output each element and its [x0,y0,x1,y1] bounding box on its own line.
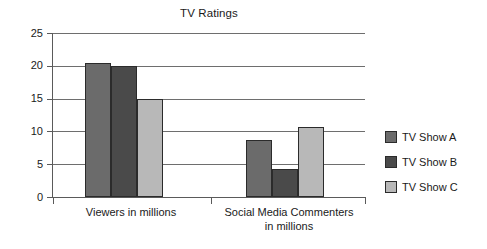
y-tick-label-15: 15 [13,93,43,104]
x-axis-label-line: Social Media Commenters [199,206,379,220]
legend-item-tv-show-c[interactable]: TV Show C [385,174,485,199]
legend-swatch-icon [385,156,397,168]
legend-label: TV Show B [402,156,457,168]
x-axis-label-group-1: Viewers in millions [41,206,221,220]
bar-tv-show-b-group-1 [111,66,137,197]
legend-item-tv-show-a[interactable]: TV Show A [385,124,485,149]
bar-chart: TV Ratings 0510152025 Viewers in million… [0,0,487,249]
x-axis-label-group-2: Social Media Commentersin millions [199,206,379,233]
x-axis-tick-2 [365,197,366,204]
y-tick-label-0: 0 [13,192,43,203]
bar-tv-show-b-group-2 [272,169,298,197]
bar-tv-show-c-group-1 [137,99,163,197]
y-axis-tick-labels: 0510152025 [11,0,43,249]
legend-swatch-icon [385,181,397,193]
bar-tv-show-a-group-1 [85,63,111,197]
chart-legend: TV Show ATV Show BTV Show C [385,124,485,199]
gridline-25 [53,33,365,34]
chart-title: TV Ratings [53,7,365,19]
legend-swatch-icon [385,131,397,143]
x-axis-label-line: in millions [199,220,379,234]
x-axis-tick-0 [53,197,54,204]
legend-label: TV Show A [402,131,456,143]
y-tick-label-25: 25 [13,28,43,39]
gridline-0 [53,197,365,198]
bar-tv-show-c-group-2 [298,127,324,197]
y-tick-label-5: 5 [13,159,43,170]
x-axis-label-line: Viewers in millions [41,206,221,220]
bar-tv-show-a-group-2 [246,140,272,197]
y-tick-label-20: 20 [13,60,43,71]
x-axis-tick-1 [211,197,212,204]
plot-area [53,33,365,197]
legend-label: TV Show C [402,181,458,193]
legend-item-tv-show-b[interactable]: TV Show B [385,149,485,174]
y-tick-label-10: 10 [13,126,43,137]
